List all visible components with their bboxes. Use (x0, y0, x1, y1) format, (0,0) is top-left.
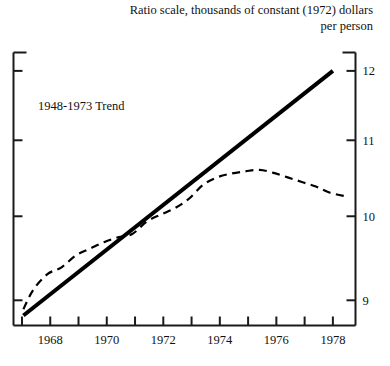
trend-annotation-label: 1948-1973 Trend (38, 99, 125, 113)
chart-figure: Ratio scale, thousands of constant (1972… (0, 0, 390, 366)
x-tick-label: 1974 (207, 333, 233, 347)
y-tick-label: 9 (363, 294, 369, 308)
actual-data-series (23, 170, 347, 309)
x-tick-label: 1976 (264, 333, 289, 347)
y-tick-label: 12 (363, 64, 376, 78)
chart-annotations: 1948-1973 Trend (38, 99, 125, 113)
y-tick-label: 10 (363, 210, 376, 224)
x-tick-label: 1972 (151, 333, 176, 347)
chart-plot-area: 9101112196819701972197419761978 1948-197… (0, 0, 390, 366)
x-tick-label: 1978 (320, 333, 345, 347)
y-tick-label: 11 (363, 134, 375, 148)
x-tick-label: 1968 (38, 333, 63, 347)
x-tick-label: 1970 (94, 333, 119, 347)
